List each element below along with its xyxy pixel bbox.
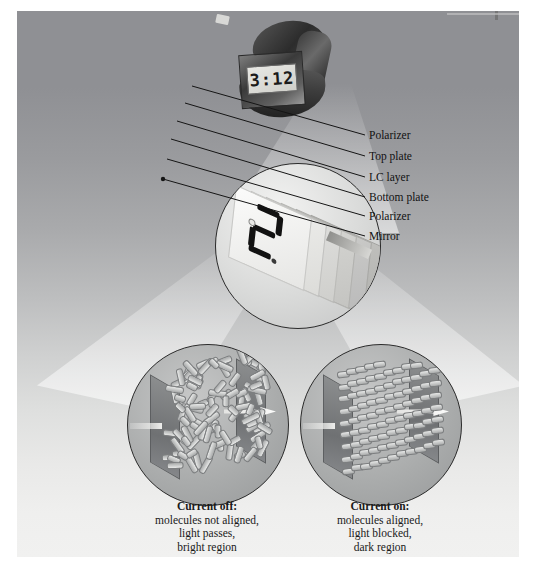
- incoming-light-beam: [303, 423, 335, 429]
- caption-off-heading: Current off:: [177, 500, 237, 512]
- current-on-lens: [300, 344, 462, 506]
- incoming-light-beam: [130, 423, 162, 429]
- artwork-panel: 3:12: [17, 11, 519, 557]
- caption-current-on: Current on: molecules aligned, light blo…: [285, 500, 475, 554]
- lc-molecule: [409, 361, 423, 369]
- molecule-scene-random: [128, 345, 288, 505]
- lc-molecule: [429, 391, 443, 399]
- lc-molecule: [167, 462, 184, 469]
- caption-on-line-2: light blocked,: [348, 527, 411, 539]
- lc-molecule: [189, 403, 206, 410]
- caption-off-line-1: molecules not aligned,: [155, 514, 259, 526]
- caption-off-line-3: bright region: [177, 541, 237, 553]
- lc-molecule: [430, 415, 444, 423]
- lc-molecule: [373, 360, 387, 368]
- lc-molecule: [428, 367, 442, 375]
- molecule-scene-aligned: [301, 345, 461, 505]
- lc-molecule: [428, 379, 442, 387]
- lc-molecule: [222, 395, 229, 407]
- mirror-anchor-dot: [161, 177, 165, 181]
- lc-molecule: [431, 439, 445, 447]
- caption-current-off: Current off: molecules not aligned, ligh…: [112, 500, 302, 554]
- caption-off-line-2: light passes,: [179, 527, 235, 539]
- caption-on-line-3: dark region: [354, 541, 407, 553]
- caption-on-heading: Current on:: [351, 500, 410, 512]
- caption-on-line-1: molecules aligned,: [337, 514, 423, 526]
- current-off-lens: [127, 344, 289, 506]
- lcd-figure: 3:12: [0, 0, 536, 574]
- lc-molecule: [431, 426, 445, 434]
- lc-molecule: [430, 403, 444, 411]
